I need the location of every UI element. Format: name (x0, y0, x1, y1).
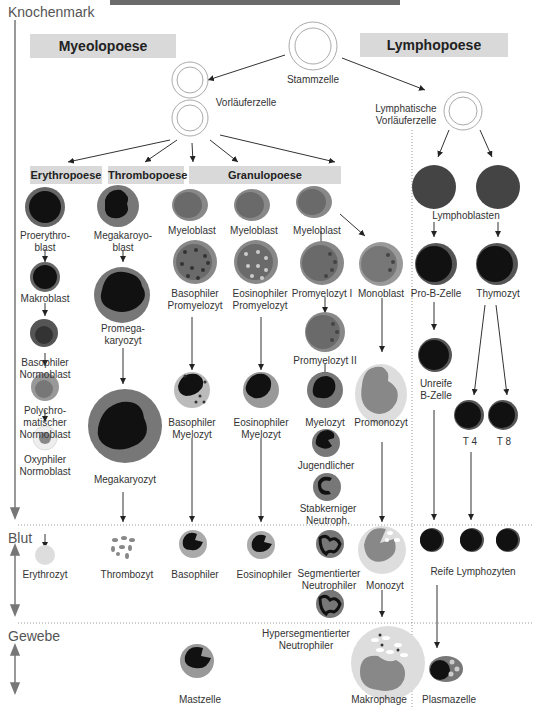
label-eos-promyelocyte-2: Promyelozyt (232, 300, 287, 312)
baso-myelocyte-icon (174, 372, 210, 408)
label-proerythroblast-1: Proerythro- (20, 230, 70, 242)
label-eos-myelocyte-1: Eosinophiler (233, 417, 288, 429)
myeloblast-3-icon (296, 186, 332, 218)
basophil-icon (179, 530, 207, 558)
macrophage-icon (351, 626, 425, 700)
stem-cell-icon (289, 22, 337, 70)
monoblast-icon (359, 242, 403, 286)
megakaryoblast-icon (97, 185, 139, 227)
label-t4: T 4 (463, 436, 477, 448)
label-macroblast: Makroblast (21, 293, 70, 305)
label-immature-b-2: B-Zelle (420, 390, 452, 402)
label-t8: T 8 (497, 436, 511, 448)
label-thrombocyte: Thrombozyt (101, 569, 154, 581)
label-oxy-normoblast-2: Normoblast (19, 466, 70, 478)
label-poly-normoblast-3: Normoblast (19, 429, 70, 441)
label-seg-neutro-1: Segmentierter (298, 568, 361, 580)
progenitor-cell-2-icon (172, 100, 208, 136)
label-megakaryoblast-1: Megakaroyo- (94, 230, 152, 242)
megakaryocyte-icon (88, 389, 162, 463)
label-promonocyte: Promonozyt (354, 417, 407, 429)
immature-b-cell-icon (418, 338, 452, 372)
label-eos-promyelocyte-1: Eosinophiler (232, 288, 287, 300)
label-hyperseg-1: Hypersegmentierter (262, 628, 350, 640)
seg-neutrophil-icon (316, 530, 344, 558)
progenitor-cell-icon (172, 62, 208, 98)
label-pro-b: Pro-B-Zelle (411, 288, 462, 300)
plasma-cell-icon (429, 656, 463, 682)
label-mature-lymphocytes: Reife Lymphozyten (430, 566, 515, 578)
label-promyelocyte-2: Promyelozyt II (293, 355, 356, 367)
macroblast-icon (30, 262, 60, 292)
label-monocyte: Monozyt (366, 580, 404, 592)
label-poly-normoblast-1: Polychro- (24, 405, 66, 417)
label-basophil: Basophiler (171, 569, 218, 581)
label-lymph-progenitor-1: Lymphatische (375, 103, 436, 115)
label-baso-normoblast-1: Basophiler (21, 357, 68, 369)
label-myelocyte: Myelozyt (305, 417, 344, 429)
label-thymocyte: Thymozyt (476, 288, 519, 300)
eosinophil-icon (247, 531, 275, 559)
label-megakaryocyte: Megakaryozyt (94, 474, 156, 486)
pro-b-cell-icon (415, 243, 457, 285)
arrow-head (11, 508, 19, 518)
label-plasma-cell: Plasmazelle (422, 694, 476, 706)
band-neutrophil-icon (313, 473, 341, 501)
promyelocyte-2-icon (305, 312, 345, 352)
label-lymph-progenitor-2: Vorläuferzelle (376, 115, 437, 127)
myeloblast-1-icon (172, 189, 208, 221)
label-erythrocyte: Erythrozyt (22, 569, 67, 581)
label-promegakaryocyte-1: Promega- (101, 323, 145, 335)
label-hyperseg-2: Neutrophiler (279, 640, 333, 652)
thymocyte-icon (476, 243, 518, 285)
lymph-progenitor-icon (444, 92, 482, 130)
label-immature-b-1: Unreife (420, 378, 452, 390)
t4-cell-icon (454, 400, 484, 430)
label-baso-myelocyte-2: Myelozyt (172, 429, 211, 441)
label-baso-promyelocyte-1: Basophiler (171, 288, 218, 300)
eos-myelocyte-icon (243, 372, 279, 408)
lymphoblast-2-icon (476, 165, 520, 209)
label-promegakaryocyte-2: karyozyt (104, 335, 141, 347)
label-megakaryoblast-2: blast (112, 242, 133, 254)
label-band-2: Neutroph. (306, 515, 350, 527)
thrombocyte-icon (111, 536, 135, 559)
juvenile-icon (312, 429, 340, 457)
label-stem-cell: Stammzelle (287, 74, 339, 86)
mature-lymphocyte-2-icon (460, 528, 484, 552)
label-myeloblast-1: Myeloblast (168, 225, 216, 237)
label-oxy-normoblast-1: Oxyphiler (24, 454, 66, 466)
label-promyelocyte-1: Promyelozyt I (292, 288, 353, 300)
label-baso-promyelocyte-2: Promyelozyt (167, 300, 222, 312)
hyperseg-neutrophil-icon (316, 590, 344, 618)
promyelocyte-1-icon (300, 241, 344, 285)
label-seg-neutro-2: Neutrophiler (302, 580, 356, 592)
label-poly-normoblast-2: matischer (23, 417, 66, 429)
label-lymphoblasts: Lymphoblasten (432, 210, 499, 222)
lymphoblast-1-icon (412, 165, 456, 209)
label-myeloblast-3: Myeloblast (293, 225, 341, 237)
myelocyte-icon (307, 372, 343, 408)
eos-promyelocyte-icon (234, 240, 278, 284)
label-proerythroblast-2: blast (34, 242, 55, 254)
label-monoblast: Monoblast (358, 288, 404, 300)
label-myeloblast-2: Myeloblast (230, 225, 278, 237)
label-baso-myelocyte-1: Basophiler (168, 417, 215, 429)
label-baso-normoblast-2: Normoblast (19, 369, 70, 381)
baso-promyelocyte-icon (173, 240, 217, 284)
proerythroblast-icon (25, 187, 65, 227)
myeloblast-2-icon (234, 189, 270, 221)
label-mast-cell: Mastzelle (179, 694, 221, 706)
label-band-1: Stabkerniger (300, 503, 357, 515)
monocyte-icon (358, 526, 406, 574)
label-juvenile: Jugendlicher (298, 460, 355, 472)
label-eos-myelocyte-2: Myelozyt (241, 429, 280, 441)
mast-cell-icon (180, 644, 214, 678)
erythrocyte-icon (35, 545, 55, 565)
promegakaryocyte-icon (94, 267, 150, 323)
mature-lymphocyte-1-icon (420, 528, 444, 552)
label-eosinophil: Eosinophiler (236, 569, 291, 581)
label-progenitor: Vorläuferzelle (216, 97, 277, 109)
label-macrophage: Makrophage (351, 694, 407, 706)
t8-cell-icon (488, 400, 518, 430)
